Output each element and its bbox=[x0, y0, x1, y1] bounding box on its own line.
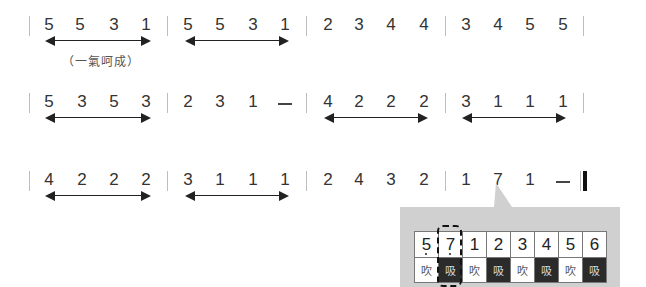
note: 3 bbox=[352, 14, 366, 36]
note: 1 bbox=[278, 14, 292, 36]
barline bbox=[29, 16, 30, 36]
note: 2 bbox=[75, 169, 89, 191]
note: 1 bbox=[278, 169, 292, 191]
barline bbox=[445, 171, 446, 191]
hole-note: 5 bbox=[559, 232, 582, 257]
note: 1 bbox=[459, 169, 473, 191]
arrow-right-icon bbox=[141, 113, 151, 123]
barline bbox=[306, 171, 307, 191]
note: 4 bbox=[352, 169, 366, 191]
note: 5 bbox=[213, 14, 227, 36]
note: 2 bbox=[384, 91, 398, 113]
note: 2 bbox=[321, 14, 335, 36]
phrase-arrow bbox=[45, 113, 151, 123]
phrase-arrow bbox=[462, 113, 566, 123]
barline bbox=[583, 16, 584, 36]
hole-note: 5 bbox=[415, 232, 438, 257]
phrase-arrow bbox=[45, 36, 151, 46]
breath-draw: 吸 bbox=[487, 258, 510, 282]
breath-draw: 吸 bbox=[535, 258, 558, 282]
hole-note: 3 bbox=[511, 232, 534, 257]
note: 5 bbox=[523, 14, 537, 36]
phrase-annotation: （一氣呵成） bbox=[62, 52, 140, 69]
harmonica-hole-callout: 5 7 1 2 3 4 5 6 吹 吸 吹 吸 吹 吸 吹 吸 bbox=[400, 207, 620, 287]
barline bbox=[29, 93, 30, 113]
note: 5 bbox=[181, 14, 195, 36]
arrow-right-icon bbox=[141, 36, 151, 46]
note: 5 bbox=[42, 91, 56, 113]
barline bbox=[306, 16, 307, 36]
hole-note: 6 bbox=[583, 232, 606, 257]
note: 4 bbox=[321, 91, 335, 113]
note: 5 bbox=[107, 91, 121, 113]
barline bbox=[445, 93, 446, 113]
note: 2 bbox=[321, 169, 335, 191]
breath-blow: 吹 bbox=[415, 258, 438, 282]
arrow-right-icon bbox=[279, 36, 289, 46]
note: 4 bbox=[417, 14, 431, 36]
note: 4 bbox=[491, 14, 505, 36]
note: 1 bbox=[246, 91, 260, 113]
phrase-arrow bbox=[185, 191, 289, 201]
barline bbox=[306, 93, 307, 113]
arrow-right-icon bbox=[141, 191, 151, 201]
sustain-dash bbox=[556, 181, 570, 183]
hole-note: 4 bbox=[535, 232, 558, 257]
note: 3 bbox=[181, 169, 195, 191]
hole-note: 1 bbox=[463, 232, 486, 257]
note: 4 bbox=[42, 169, 56, 191]
note: 2 bbox=[139, 169, 153, 191]
note: 1 bbox=[246, 169, 260, 191]
note: 2 bbox=[352, 91, 366, 113]
final-barline-thick bbox=[583, 171, 587, 191]
arrow-right-icon bbox=[418, 113, 428, 123]
note: 1 bbox=[213, 169, 227, 191]
note: 5 bbox=[42, 14, 56, 36]
callout-pointer bbox=[494, 183, 512, 207]
barline bbox=[583, 93, 584, 113]
note: 3 bbox=[75, 91, 89, 113]
note: 2 bbox=[107, 169, 121, 191]
phrase-arrow bbox=[185, 36, 289, 46]
barline bbox=[167, 171, 168, 191]
note: 2 bbox=[417, 169, 431, 191]
highlighted-hole-frame bbox=[437, 225, 462, 287]
breath-draw: 吸 bbox=[583, 258, 606, 282]
sustain-dash bbox=[278, 103, 292, 105]
note: 3 bbox=[459, 91, 473, 113]
low-octave-dot bbox=[425, 253, 427, 255]
barline bbox=[445, 16, 446, 36]
note: 3 bbox=[107, 14, 121, 36]
phrase-arrow bbox=[45, 191, 151, 201]
hole-note: 2 bbox=[487, 232, 510, 257]
breath-blow: 吹 bbox=[463, 258, 486, 282]
note: 1 bbox=[139, 14, 153, 36]
note: 1 bbox=[491, 91, 505, 113]
note: 3 bbox=[246, 14, 260, 36]
note: 3 bbox=[139, 91, 153, 113]
note: 1 bbox=[523, 91, 537, 113]
note: 1 bbox=[556, 91, 570, 113]
arrow-right-icon bbox=[556, 113, 566, 123]
breath-blow: 吹 bbox=[511, 258, 534, 282]
note: 3 bbox=[213, 91, 227, 113]
note: 3 bbox=[384, 169, 398, 191]
note: 5 bbox=[556, 14, 570, 36]
note: 1 bbox=[523, 169, 537, 191]
note: 2 bbox=[417, 91, 431, 113]
barline bbox=[29, 171, 30, 191]
breath-blow: 吹 bbox=[559, 258, 582, 282]
barline bbox=[167, 16, 168, 36]
final-barline-thin bbox=[580, 171, 581, 191]
note: 3 bbox=[459, 14, 473, 36]
barline bbox=[167, 93, 168, 113]
arrow-right-icon bbox=[279, 191, 289, 201]
note: 2 bbox=[181, 91, 195, 113]
note: 4 bbox=[384, 14, 398, 36]
phrase-arrow bbox=[324, 113, 428, 123]
note: 5 bbox=[73, 14, 87, 36]
